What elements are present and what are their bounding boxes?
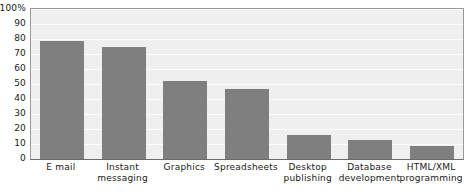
bar xyxy=(40,41,84,160)
x-tick-label-line: messaging xyxy=(88,173,158,184)
x-tick-label-line: development xyxy=(335,173,405,184)
y-tick-label: 100% xyxy=(0,4,26,13)
bar xyxy=(225,89,269,160)
y-tick-label: 90 xyxy=(14,19,26,28)
y-tick-label: 60 xyxy=(14,64,26,73)
y-tick-label: 30 xyxy=(14,109,26,118)
x-tick-label-line: Desktop xyxy=(273,162,343,173)
x-tick-label-line: Graphics xyxy=(149,162,219,173)
x-tick-label: E mail xyxy=(26,162,96,173)
bar xyxy=(287,135,331,159)
x-tick-label-line: publishing xyxy=(273,173,343,184)
y-tick-label: 40 xyxy=(14,94,26,103)
x-tick-label: HTML/XMLprogramming xyxy=(396,162,466,184)
x-tick-label-line: HTML/XML xyxy=(396,162,466,173)
x-tick-label-line: Spreadsheets xyxy=(211,162,281,173)
x-tick-label: Desktoppublishing xyxy=(273,162,343,184)
x-tick-label: Databasedevelopment xyxy=(335,162,405,184)
x-tick-label-line: Database xyxy=(335,162,405,173)
x-axis: E mailInstantmessagingGraphicsSpreadshee… xyxy=(30,162,462,194)
x-tick-label-line: programming xyxy=(396,173,466,184)
x-tick-label: Instantmessaging xyxy=(88,162,158,184)
bar-chart: 100%9080706050403020100 E mailInstantmes… xyxy=(0,0,468,194)
bar xyxy=(163,81,207,159)
y-tick-label: 80 xyxy=(14,34,26,43)
bar xyxy=(102,47,146,160)
y-tick-label: 10 xyxy=(14,139,26,148)
y-tick-label: 20 xyxy=(14,124,26,133)
y-axis: 100%9080706050403020100 xyxy=(0,0,29,162)
x-tick-label-line: Instant xyxy=(88,162,158,173)
bars-layer xyxy=(31,9,463,159)
x-tick-label: Spreadsheets xyxy=(211,162,281,173)
x-tick-label-line: E mail xyxy=(26,162,96,173)
y-tick-label: 50 xyxy=(14,79,26,88)
y-tick-label: 70 xyxy=(14,49,26,58)
bar xyxy=(410,146,454,160)
plot-area xyxy=(30,8,464,160)
bar xyxy=(348,140,392,160)
x-tick-label: Graphics xyxy=(149,162,219,173)
